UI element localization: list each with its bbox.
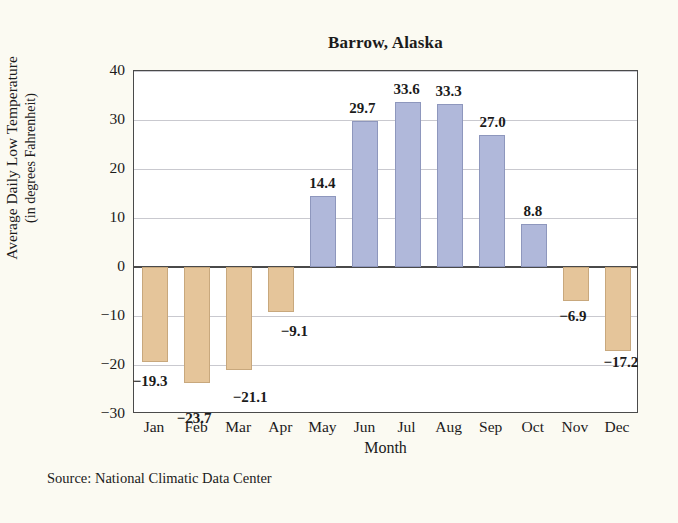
bar-apr xyxy=(268,267,294,312)
source-note: Source: National Climatic Data Center xyxy=(47,470,272,487)
bar-aug xyxy=(437,104,463,267)
gridline xyxy=(134,169,637,170)
x-axis-tick-aug: Aug xyxy=(428,418,470,436)
x-axis-tick-sep: Sep xyxy=(470,418,512,436)
bar-feb xyxy=(184,267,210,383)
value-label-oct: 8.8 xyxy=(523,203,542,220)
bar-sep xyxy=(479,135,505,267)
x-axis-tick-oct: Oct xyxy=(512,418,554,436)
value-label-mar: −21.1 xyxy=(233,389,268,406)
gridline xyxy=(134,71,637,72)
y-axis-tick-20: 20 xyxy=(79,159,125,177)
x-axis-tick-mar: Mar xyxy=(217,418,259,436)
y-axis-title-line2: (in degrees Fahrenheit) xyxy=(22,0,39,332)
value-label-apr: −9.1 xyxy=(281,323,308,340)
chart-page: Barrow, Alaska Average Daily Low Tempera… xyxy=(0,0,678,523)
value-label-nov: −6.9 xyxy=(559,308,586,325)
y-axis-tick-30: 30 xyxy=(79,110,125,128)
x-axis-tick-apr: Apr xyxy=(259,418,301,436)
bar-may xyxy=(310,196,336,267)
bar-nov xyxy=(563,267,589,301)
value-label-may: 14.4 xyxy=(309,175,335,192)
bar-oct xyxy=(521,224,547,267)
gridline xyxy=(134,218,637,219)
value-label-aug: 33.3 xyxy=(436,83,462,100)
bar-jan xyxy=(142,267,168,362)
x-axis-title: Month xyxy=(133,439,638,457)
y-axis-tick-0: 0 xyxy=(79,257,125,275)
x-axis-tick-jan: Jan xyxy=(133,418,175,436)
value-label-jul: 33.6 xyxy=(393,81,419,98)
gridline xyxy=(134,120,637,121)
bar-jun xyxy=(352,121,378,267)
chart-title: Barrow, Alaska xyxy=(133,33,638,53)
y-axis-title-line1: Average Daily Low Temperature xyxy=(3,0,22,332)
y-axis-title: Average Daily Low Temperature (in degree… xyxy=(3,0,39,332)
y-axis-tick-40: 40 xyxy=(79,61,125,79)
x-axis-tick-jun: Jun xyxy=(343,418,385,436)
y-axis-tick-minus10: −10 xyxy=(79,306,125,324)
value-label-jan: −19.3 xyxy=(133,373,168,390)
x-axis-tick-feb: Feb xyxy=(175,418,217,436)
y-axis-tick-10: 10 xyxy=(79,208,125,226)
bar-dec xyxy=(605,267,631,351)
x-axis-tick-dec: Dec xyxy=(596,418,638,436)
bar-mar xyxy=(226,267,252,370)
value-label-jun: 29.7 xyxy=(349,100,375,117)
bar-jul xyxy=(395,102,421,267)
value-label-sep: 27.0 xyxy=(480,114,506,131)
value-label-dec: −17.2 xyxy=(604,354,639,371)
x-axis-tick-may: May xyxy=(301,418,343,436)
plot-inner xyxy=(134,71,637,412)
x-axis-tick-jul: Jul xyxy=(386,418,428,436)
x-axis-tick-nov: Nov xyxy=(554,418,596,436)
plot-area xyxy=(133,70,638,413)
y-axis-tick-minus20: −20 xyxy=(79,355,125,373)
y-axis-tick-minus30: −30 xyxy=(79,404,125,422)
